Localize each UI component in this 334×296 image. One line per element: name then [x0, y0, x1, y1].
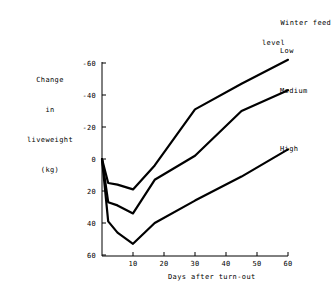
x-tick-label: 30 — [190, 260, 199, 268]
y-tick-label: 20 — [87, 188, 96, 196]
x-axis-ticks — [133, 252, 288, 256]
x-tick-label: 40 — [221, 260, 230, 268]
series-line-high — [102, 149, 288, 243]
y-tick-label: -60 — [82, 60, 96, 68]
x-tick-label: 50 — [252, 260, 261, 268]
x-tick-label: 20 — [159, 260, 168, 268]
y-tick-label: -20 — [82, 124, 96, 132]
x-tick-label: 10 — [128, 260, 137, 268]
x-tick-label: 60 — [283, 260, 292, 268]
x-axis-tick-labels: 102030405060 — [128, 260, 292, 268]
series-line-low — [102, 60, 288, 190]
series-lines — [102, 60, 288, 244]
chart-container: Winter feed level Change in liveweight (… — [0, 0, 334, 296]
y-axis-tick-labels: 6040200-20-40-60 — [82, 60, 96, 260]
plot-area: 6040200-20-40-60 102030405060 — [0, 0, 334, 296]
x-axis: 102030405060 — [102, 252, 293, 268]
y-tick-label: 60 — [87, 252, 96, 260]
y-tick-label: -40 — [82, 92, 96, 100]
y-tick-label: 40 — [87, 220, 96, 228]
y-tick-label: 0 — [91, 156, 96, 164]
